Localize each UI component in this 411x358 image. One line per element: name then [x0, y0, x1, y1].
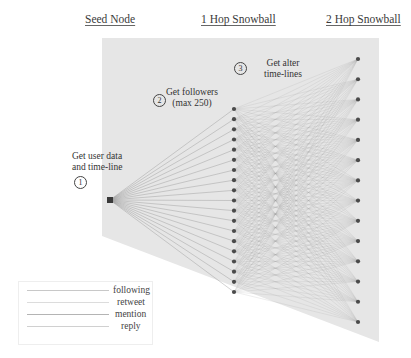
hop1-node — [232, 148, 236, 152]
legend-label-mention: mention — [115, 308, 146, 320]
legend-line-mention — [27, 314, 109, 315]
step-3-line-1: Get alter — [264, 58, 302, 69]
step-1-number-icon: 1 — [74, 176, 87, 189]
hop1-node — [232, 219, 236, 223]
step-2-line-1: Get followers — [166, 87, 218, 98]
legend-line-reply — [27, 326, 109, 327]
step-1-line-1: Get user data — [72, 151, 122, 162]
step-2-line-2: (max 250) — [166, 98, 218, 109]
step-3-label: Get alter time-lines — [264, 58, 302, 79]
hop1-node — [232, 137, 236, 141]
hop2-node — [356, 320, 360, 324]
hop2-node — [356, 279, 360, 283]
hop2-node — [356, 219, 360, 223]
hop2-node — [356, 158, 360, 162]
hop2-node — [356, 178, 360, 182]
hop1-node — [232, 229, 236, 233]
legend-item-mention: mention — [19, 308, 152, 320]
hop1-node — [232, 280, 236, 284]
seed-node — [107, 197, 113, 203]
hop1-node — [232, 239, 236, 243]
hop2-node — [356, 57, 360, 61]
step-3-number-icon: 3 — [234, 62, 247, 75]
legend-line-following — [27, 290, 109, 291]
legend-item-retweet: retweet — [19, 296, 152, 308]
hop1-node — [232, 290, 236, 294]
hop1-node — [232, 158, 236, 162]
hop1-node — [232, 168, 236, 172]
hop1-node — [232, 270, 236, 274]
step-1-label: Get user data and time-line — [72, 151, 122, 172]
hop1-node — [232, 117, 236, 121]
legend-item-reply: reply — [19, 320, 152, 332]
hop1-node — [232, 198, 236, 202]
hop2-node — [356, 77, 360, 81]
hop1-node — [232, 188, 236, 192]
legend-label-retweet: retweet — [117, 296, 145, 308]
hop2-node — [356, 97, 360, 101]
hop2-node — [356, 239, 360, 243]
step-1-line-2: and time-line — [72, 162, 122, 173]
legend-label-following: following — [113, 284, 150, 296]
hop2-node — [356, 199, 360, 203]
hop2-node — [356, 300, 360, 304]
hop1-node — [232, 127, 236, 131]
legend-line-retweet — [27, 302, 109, 303]
hop1-node — [232, 107, 236, 111]
hop2-node — [356, 259, 360, 263]
hop1-node — [232, 178, 236, 182]
hop1-node — [232, 249, 236, 253]
hop2-node — [356, 118, 360, 122]
hop1-node — [232, 259, 236, 263]
legend-label-reply: reply — [121, 320, 141, 332]
step-3-line-2: time-lines — [264, 69, 302, 80]
step-2-label: Get followers (max 250) — [166, 87, 218, 108]
step-2-number-icon: 2 — [153, 94, 166, 107]
legend: following retweet mention reply — [18, 281, 153, 345]
hop1-node — [232, 209, 236, 213]
legend-item-following: following — [19, 284, 152, 296]
hop2-node — [356, 138, 360, 142]
